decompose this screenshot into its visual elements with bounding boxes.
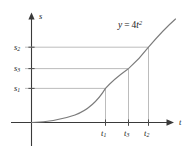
s-axis-arrow-icon	[28, 13, 34, 20]
y-tick-sub-s3: 3	[17, 67, 20, 73]
x-tick-label-t2: t2	[144, 129, 149, 139]
x-axis-label: t	[179, 118, 181, 127]
x-tick-label-t1: t1	[101, 129, 106, 139]
y-tick-sub-s1: 1	[17, 87, 20, 93]
y-tick-label-s3: s3	[14, 64, 20, 74]
y-tick-label-s1: s1	[14, 84, 20, 94]
x-tick-sub-t2: 2	[146, 132, 149, 138]
t-axis-arrow-icon	[167, 119, 175, 126]
y-tick-sub-s2: 2	[17, 46, 20, 52]
curve-equation-label: y=4t2	[118, 20, 142, 30]
graph-canvas	[0, 0, 194, 152]
x-tick-sub-t3: 3	[126, 132, 129, 138]
y-tick-label-s2: s2	[14, 43, 20, 53]
curve-equation-operator: =	[124, 20, 129, 30]
parabola-curve	[32, 19, 176, 123]
curve-equation-exponent: 2	[139, 19, 142, 26]
x-tick-sub-t1: 1	[103, 132, 106, 138]
y-axis-label: s	[39, 12, 42, 21]
curve-equation-lhs: y	[118, 20, 122, 30]
x-tick-label-t3: t3	[124, 129, 129, 139]
graph-figure: s t s2 s3 s1 t1 t3 t2 y=4t2	[0, 0, 194, 152]
